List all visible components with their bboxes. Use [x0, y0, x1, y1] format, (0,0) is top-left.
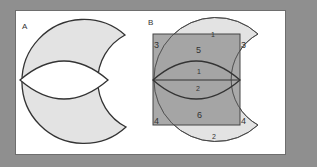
figure-a: A: [20, 19, 126, 143]
region-label-bottom-left: 4: [154, 116, 159, 126]
region-label-upper-lens: 1: [197, 68, 201, 75]
region-label-upper-rect: 5: [196, 45, 201, 55]
figure-b: B 1 3 3 5 1 2 6 4 4 2: [148, 17, 258, 141]
region-label-bottom-right: 4: [241, 116, 246, 126]
panel-a-label: A: [22, 22, 28, 31]
region-label-bottom-cap: 2: [212, 133, 216, 140]
region-label-top-cap: 1: [211, 31, 215, 38]
region-label-top-right: 3: [241, 40, 246, 50]
diagram-canvas: A B 1 3 3 5 1 2 6 4 4 2: [0, 0, 317, 167]
panel-b-label: B: [148, 18, 153, 27]
region-label-lower-lens: 2: [196, 85, 200, 92]
region-label-top-left: 3: [154, 40, 159, 50]
region-label-lower-rect: 6: [197, 110, 202, 120]
